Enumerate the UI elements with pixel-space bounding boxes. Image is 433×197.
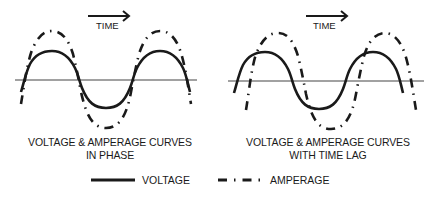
time-label: TIME [313, 20, 336, 31]
diagram-canvas [0, 0, 433, 197]
caption-line: VOLTAGE & AMPERAGE CURVES [10, 136, 210, 149]
in-phase-caption: VOLTAGE & AMPERAGE CURVES IN PHASE [10, 136, 210, 162]
caption-line: VOLTAGE & AMPERAGE CURVES [228, 136, 428, 149]
caption-line: IN PHASE [10, 149, 210, 162]
time-lag-caption: VOLTAGE & AMPERAGE CURVES WITH TIME LAG [228, 136, 428, 162]
legend-amperage-label: AMPERAGE [270, 174, 330, 186]
caption-line: WITH TIME LAG [228, 149, 428, 162]
legend-voltage-label: VOLTAGE [142, 174, 190, 186]
time-label: TIME [96, 20, 119, 31]
